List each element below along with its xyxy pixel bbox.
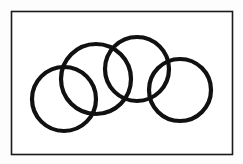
outer-border	[12, 12, 233, 155]
overlapping-circles-figure	[0, 0, 243, 164]
figure-canvas: Four overlapping circles in a chain arra…	[0, 0, 243, 164]
